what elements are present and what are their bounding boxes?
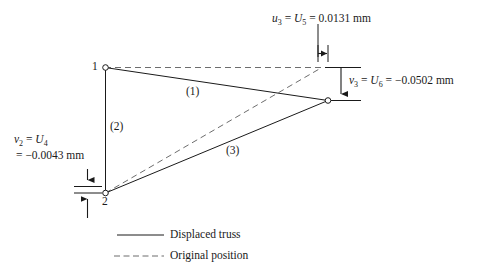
node-2-label: 2 [102, 195, 108, 207]
u3-equals-2: = [309, 12, 316, 24]
v3-symbol-sub: 3 [354, 80, 358, 89]
member-1-line [105, 68, 328, 101]
legend-sample-lines [114, 235, 164, 256]
v2-equals-1: = [26, 133, 33, 145]
u3-value: 0.0131 mm [319, 12, 371, 24]
member-2-label: (2) [110, 120, 123, 132]
v2-dimension-group [74, 169, 102, 218]
member-3-label: (3) [226, 144, 239, 156]
legend-label-displaced-truss: Displaced truss [170, 228, 241, 240]
node-3-marker [325, 98, 331, 104]
figure-canvas: u3 = U5 = 0.0131 mm v3 = U6 = −0.0502 mm… [0, 0, 490, 278]
u3-annotation: u3 = U5 = 0.0131 mm [272, 11, 371, 27]
v2-annotation: v2 = U4 = −0.0043 mm [14, 132, 84, 163]
u3-dimension-group [318, 24, 328, 62]
v3-ref: U [370, 74, 378, 86]
v3-ref-sub: 6 [379, 80, 383, 89]
legend-label-original-position: Original position [170, 249, 248, 261]
displaced-truss-group [105, 68, 328, 194]
member-1-label: (1) [186, 85, 199, 97]
v2-equals-2: = [16, 149, 23, 161]
v3-equals-2: = [386, 74, 393, 86]
v3-annotation: v3 = U6 = −0.0502 mm [349, 73, 454, 89]
node-1-marker [103, 65, 109, 71]
u3-symbol-sub: 3 [278, 18, 282, 27]
v3-equals-1: = [361, 74, 368, 86]
v2-value-line: = −0.0043 mm [16, 148, 84, 164]
v2-ref-sub: 4 [44, 139, 48, 148]
original-position-group [105, 68, 322, 194]
v2-symbol-sub: 2 [19, 139, 23, 148]
node-1-label: 1 [92, 60, 98, 72]
v2-ref: U [35, 133, 43, 145]
u3-ref-sub: 5 [302, 18, 306, 27]
u3-equals-1: = [285, 12, 292, 24]
v2-value: −0.0043 mm [25, 149, 84, 161]
member-3-line [106, 101, 329, 194]
original-member-3-dashed [106, 68, 322, 193]
v3-value: −0.0502 mm [395, 74, 454, 86]
u3-symbol: u [272, 12, 278, 24]
